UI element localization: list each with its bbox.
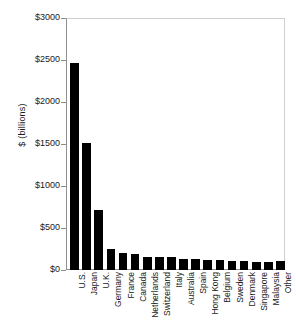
bar xyxy=(70,63,79,270)
bar xyxy=(143,257,152,270)
x-axis-tick-labels: U.S.JapanU.K.GermanyFranceCanadaNetherla… xyxy=(67,272,285,330)
bar xyxy=(107,249,116,270)
y-tick-label: $2500 xyxy=(18,55,60,64)
x-tick-label: Singapore xyxy=(260,272,269,311)
bar xyxy=(203,260,212,271)
y-tick-mark xyxy=(61,270,66,271)
x-tick-label: Germany xyxy=(114,272,123,307)
bar xyxy=(94,210,103,270)
x-tick-label: France xyxy=(127,272,136,298)
y-tick-label: $500 xyxy=(18,223,60,232)
bar xyxy=(276,261,285,270)
y-tick-label: $1500 xyxy=(18,139,60,148)
bar xyxy=(216,260,225,270)
x-tick-label: Canada xyxy=(139,272,148,302)
bar xyxy=(82,143,91,270)
x-tick-label: Malaysia xyxy=(272,272,281,306)
x-tick-label: Belgium xyxy=(223,272,232,303)
x-tick-label: Japan xyxy=(90,272,99,295)
x-tick-label: Switzerland xyxy=(163,272,172,316)
bar-chart: $ (billions) $0$500$1000$1500$2000$2500$… xyxy=(0,0,296,330)
x-tick-label: Australia xyxy=(187,272,196,305)
x-tick-label: Denmark xyxy=(248,272,257,306)
x-tick-label: Sweden xyxy=(236,272,245,303)
x-tick-label: Italy xyxy=(175,272,184,288)
x-tick-label: Spain xyxy=(199,272,208,294)
bar xyxy=(252,262,261,270)
bar xyxy=(228,261,237,270)
bar xyxy=(131,254,140,270)
bar xyxy=(167,257,176,270)
y-axis-tick-labels: $0$500$1000$1500$2000$2500$3000 xyxy=(14,0,60,330)
x-tick-label: Hong Kong xyxy=(211,272,220,315)
bar xyxy=(155,257,164,270)
y-tick-label: $2000 xyxy=(18,97,60,106)
bar-series xyxy=(67,18,285,270)
y-tick-label: $3000 xyxy=(18,13,60,22)
x-tick-label: Netherlands xyxy=(151,272,160,318)
bar xyxy=(179,259,188,270)
y-tick-label: $0 xyxy=(18,265,60,274)
y-tick-label: $1000 xyxy=(18,181,60,190)
bar xyxy=(119,253,128,270)
bar xyxy=(191,259,200,270)
x-tick-label: Other xyxy=(284,272,293,293)
bar xyxy=(264,262,273,270)
bar xyxy=(240,261,249,270)
x-tick-label: U.S. xyxy=(78,272,87,289)
x-tick-label: U.K. xyxy=(102,272,111,289)
